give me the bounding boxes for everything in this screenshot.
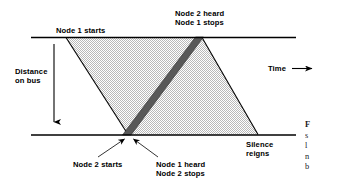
caption-line-3: l <box>305 141 339 152</box>
label-distance-on-bus: Distance on bus <box>15 67 47 86</box>
label-node1-starts: Node 1 starts <box>56 26 105 35</box>
label-node2-stops-line: Node 2 stops <box>156 169 205 178</box>
label-silence-line1: Silence <box>246 140 273 149</box>
caption-line-1: F <box>305 120 339 131</box>
label-silence-reigns: Silence reigns <box>246 140 273 159</box>
label-node1-stops-line: Node 1 stops <box>175 18 224 27</box>
label-node2-starts: Node 2 starts <box>73 160 122 169</box>
figure-root: Node 1 starts Node 2 heard Node 1 stops … <box>0 0 339 193</box>
caption-line-2: s <box>305 131 339 142</box>
label-time-axis: Time <box>268 64 286 73</box>
leader-node1-heard <box>134 139 159 157</box>
caption-line-4: n <box>305 152 339 163</box>
label-silence-line2: reigns <box>246 149 273 158</box>
label-node1-heard-node2-stops: Node 1 heard Node 2 stops <box>156 160 205 179</box>
label-distance-line1: Distance <box>15 67 47 76</box>
label-node2-heard-node1-stops: Node 2 heard Node 1 stops <box>175 9 224 28</box>
caption-line-5: b <box>305 162 339 173</box>
leader-node2-starts <box>98 139 125 157</box>
label-node1-heard-line: Node 1 heard <box>156 160 205 169</box>
figure-caption-fragment: F s l n b <box>305 120 339 173</box>
label-distance-line2: on bus <box>15 76 47 85</box>
label-node2-heard-line: Node 2 heard <box>175 9 224 18</box>
